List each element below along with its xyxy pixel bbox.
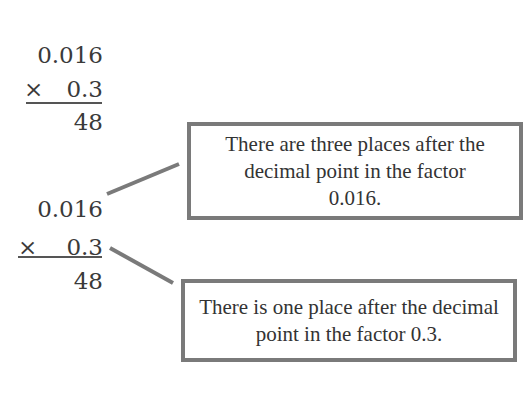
connector-line-factor1 <box>107 164 179 194</box>
callout-box-factor2: There is one place after the decimal poi… <box>181 279 517 362</box>
connector-line-factor2 <box>110 248 173 283</box>
callout-text-factor1: There are three places after the decimal… <box>220 131 490 212</box>
callout-text-factor2: There is one place after the decimal poi… <box>191 294 507 348</box>
callout-box-factor1: There are three places after the decimal… <box>187 122 523 220</box>
